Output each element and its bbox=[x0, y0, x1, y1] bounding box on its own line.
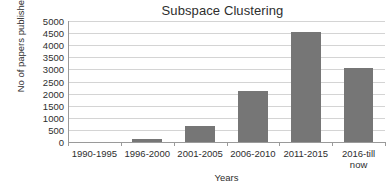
y-axis-tick-label: 3500 bbox=[22, 53, 64, 62]
x-axis-tick-mark bbox=[385, 142, 386, 146]
bar-slot bbox=[227, 21, 280, 142]
y-axis-tick-label: 4000 bbox=[22, 41, 64, 50]
x-axis-tick-mark bbox=[68, 142, 69, 146]
x-axis-tick-mark bbox=[332, 142, 333, 146]
bar-slot bbox=[68, 21, 121, 142]
y-axis-tick-label: 500 bbox=[22, 125, 64, 134]
bar-slot bbox=[121, 21, 174, 142]
x-axis-tick-label-line: 1996-2000 bbox=[121, 148, 174, 159]
y-axis-tick-label: 1000 bbox=[22, 113, 64, 122]
plot-area bbox=[68, 21, 385, 142]
x-axis-tick-label-line: now bbox=[332, 159, 385, 170]
x-axis-tick-label: 2011-2015 bbox=[279, 148, 332, 159]
y-axis-tick-label: 5000 bbox=[22, 17, 64, 26]
bar[interactable] bbox=[291, 32, 321, 142]
x-axis-tick-label: 1990-1995 bbox=[68, 148, 121, 159]
bar[interactable] bbox=[238, 91, 268, 142]
x-axis-tick-label-line: 2016-till bbox=[332, 148, 385, 159]
chart-title: Subspace Clustering bbox=[60, 3, 385, 18]
x-axis-tick-mark bbox=[121, 142, 122, 146]
x-axis-tick-mark bbox=[174, 142, 175, 146]
y-axis-tick-labels: 0500100015002000250030003500400045005000 bbox=[22, 21, 64, 142]
bar-slot bbox=[279, 21, 332, 142]
x-axis-tick-marks bbox=[68, 142, 385, 146]
x-axis-tick-label: 2006-2010 bbox=[227, 148, 280, 159]
y-axis-tick-label: 2500 bbox=[22, 77, 64, 86]
x-axis-tick-mark bbox=[227, 142, 228, 146]
x-axis-tick-mark bbox=[279, 142, 280, 146]
y-axis-tick-label: 2000 bbox=[22, 89, 64, 98]
bar-slot bbox=[174, 21, 227, 142]
x-axis-tick-label-line: 1990-1995 bbox=[68, 148, 121, 159]
x-axis-tick-label: 2001-2005 bbox=[174, 148, 227, 159]
x-axis-tick-label: 2016-tillnow bbox=[332, 148, 385, 170]
x-axis-tick-label-line: 2006-2010 bbox=[227, 148, 280, 159]
x-axis-title: Years bbox=[68, 172, 385, 183]
bar[interactable] bbox=[185, 126, 215, 142]
y-axis-tick-label: 1500 bbox=[22, 101, 64, 110]
bar[interactable] bbox=[344, 68, 374, 142]
y-axis-tick-label: 3000 bbox=[22, 65, 64, 74]
x-axis-tick-label-line: 2011-2015 bbox=[279, 148, 332, 159]
bar-chart: Subspace Clustering No of papers publish… bbox=[0, 0, 390, 195]
x-axis-tick-label: 1996-2000 bbox=[121, 148, 174, 159]
bar-slot bbox=[332, 21, 385, 142]
y-axis-tick-label: 0 bbox=[22, 138, 64, 147]
y-axis-tick-label: 4500 bbox=[22, 29, 64, 38]
x-axis-tick-label-line: 2001-2005 bbox=[174, 148, 227, 159]
bar-series bbox=[68, 21, 385, 142]
